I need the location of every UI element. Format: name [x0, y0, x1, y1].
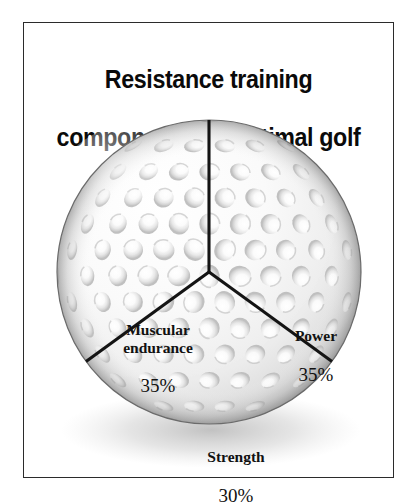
- ball-specular-highlight: [51, 122, 235, 278]
- golf-ball-dimple: [79, 371, 96, 389]
- golf-ball-dimple: [51, 318, 62, 339]
- golf-ball-dimple-rim: [357, 214, 367, 235]
- golf-ball-pie-svg: [23, 100, 394, 472]
- golf-ball-dimple: [357, 214, 367, 235]
- golf-ball-dimple-rim: [356, 318, 367, 339]
- golf-ball-dimple: [323, 371, 340, 389]
- golf-ball-dimple: [356, 318, 367, 339]
- page-title-line-1: Resistance training: [36, 65, 381, 94]
- golf-ball-dimple-rim: [51, 318, 62, 339]
- golf-ball-dimple-rim: [79, 371, 96, 389]
- figure-root: Resistance training components for optim…: [0, 0, 414, 504]
- pie-label-value: 30%: [181, 485, 291, 504]
- golf-ball-dimple-rim: [323, 371, 340, 389]
- pie-chart: Muscular endurance 35% Power 35% Strengt…: [23, 100, 394, 472]
